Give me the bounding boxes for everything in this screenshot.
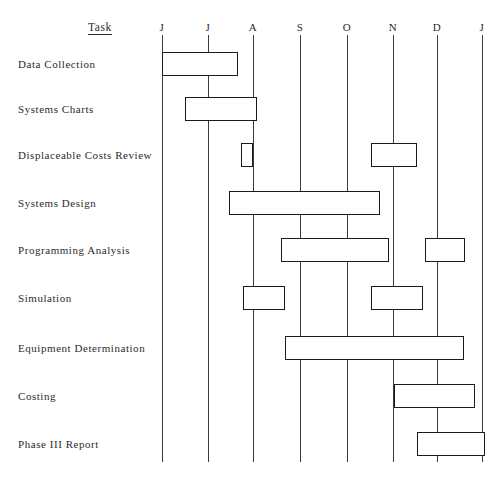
gantt-bar-systems-design <box>229 191 380 215</box>
task-column-header: Task <box>88 21 112 35</box>
grid-line-january <box>482 35 483 462</box>
gantt-bar-simulation-2 <box>371 286 423 310</box>
x-tick-label-december: D <box>433 21 441 33</box>
task-label-systems-charts: Systems Charts <box>18 103 94 115</box>
gantt-bar-data-collection <box>162 52 238 76</box>
task-label-phase-iii-report: Phase III Report <box>18 438 99 450</box>
task-label-programming-analysis: Programming Analysis <box>18 244 130 256</box>
gantt-bar-programming-analysis-2 <box>425 238 465 262</box>
gantt-bar-programming-analysis-1 <box>281 238 389 262</box>
gantt-bar-phase-iii-report <box>417 432 485 456</box>
x-tick-label-august: A <box>249 21 257 33</box>
gantt-bar-displaceable-costs-review-2 <box>371 143 417 167</box>
gantt-bar-systems-charts <box>185 97 257 121</box>
gantt-bar-costing <box>394 384 475 408</box>
task-label-simulation: Simulation <box>18 292 72 304</box>
task-label-displaceable-costs-review: Displaceable Costs Review <box>18 149 152 161</box>
x-tick-label-july: J <box>206 21 211 33</box>
task-label-data-collection: Data Collection <box>18 58 96 70</box>
x-tick-label-january: J <box>480 21 485 33</box>
task-label-equipment-determination: Equipment Determination <box>18 342 145 354</box>
x-tick-label-october: O <box>343 21 351 33</box>
x-tick-label-september: S <box>297 21 304 33</box>
grid-line-june <box>162 35 163 462</box>
task-label-costing: Costing <box>18 390 56 402</box>
gantt-bar-displaceable-costs-review-1 <box>241 143 253 167</box>
x-tick-label-june: J <box>160 21 165 33</box>
gantt-bar-equipment-determination <box>285 336 464 360</box>
task-label-systems-design: Systems Design <box>18 197 96 209</box>
x-tick-label-november: N <box>389 21 397 33</box>
gantt-bar-simulation-1 <box>243 286 285 310</box>
gantt-chart: JJASONDJ Task Data CollectionSystems Cha… <box>0 0 503 478</box>
